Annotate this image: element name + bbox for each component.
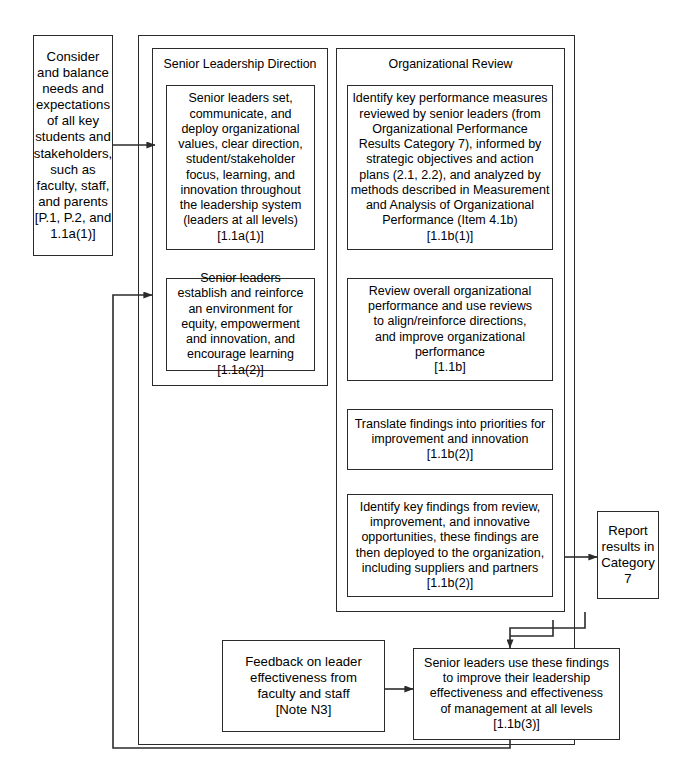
box-review-overall-performance: Review overall organizational performanc…	[347, 278, 553, 381]
box-feedback-leader-effectiveness-text: Feedback on leader effectiveness from fa…	[245, 654, 362, 718]
senior-leadership-direction-title: Senior Leadership Direction	[152, 57, 328, 71]
box-senior-leaders-environment-text: Senior leaders establish and reinforce a…	[178, 271, 304, 378]
leadership-system-diagram: Senior Leadership Direction Organization…	[0, 0, 690, 782]
box-identify-key-findings-text: Identify key findings from review, impro…	[356, 500, 544, 592]
box-identify-key-findings: Identify key findings from review, impro…	[347, 494, 553, 597]
box-report-results-category-7: Report results in Category 7	[597, 511, 659, 599]
box-feedback-leader-effectiveness: Feedback on leader effectiveness from fa…	[222, 640, 385, 732]
box-translate-findings: Translate findings into priorities for i…	[347, 409, 553, 470]
box-report-results-category-7-text: Report results in Category 7	[601, 523, 655, 587]
organizational-review-title: Organizational Review	[336, 57, 565, 71]
box-senior-leaders-use-findings-text: Senior leaders use these findings to imp…	[424, 656, 609, 732]
box-review-overall-performance-text: Review overall organizational performanc…	[368, 284, 532, 376]
box-identify-key-performance-measures: Identify key performance measures review…	[347, 85, 553, 250]
box-inputs: Consider and balance needs and expectati…	[33, 35, 113, 256]
box-senior-leaders-use-findings: Senior leaders use these findings to imp…	[413, 648, 620, 740]
box-senior-leaders-environment: Senior leaders establish and reinforce a…	[166, 278, 315, 371]
box-senior-leaders-direction: Senior leaders set, communicate, and dep…	[166, 85, 315, 250]
box-inputs-text: Consider and balance needs and expectati…	[34, 49, 112, 242]
box-translate-findings-text: Translate findings into priorities for i…	[355, 417, 546, 463]
box-identify-key-performance-measures-text: Identify key performance measures review…	[351, 91, 550, 244]
box-senior-leaders-direction-text: Senior leaders set, communicate, and dep…	[178, 91, 302, 244]
